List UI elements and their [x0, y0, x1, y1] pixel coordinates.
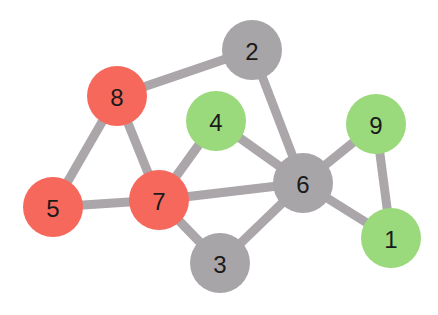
node-5[interactable]: 5 — [23, 177, 83, 237]
node-8[interactable]: 8 — [87, 66, 147, 126]
node-4[interactable]: 4 — [186, 91, 246, 151]
node-2[interactable]: 2 — [222, 20, 282, 80]
node-6[interactable]: 6 — [273, 153, 333, 213]
node-label: 1 — [384, 226, 397, 253]
node-label: 3 — [213, 251, 226, 278]
node-label: 7 — [152, 188, 165, 215]
node-label: 9 — [369, 112, 382, 139]
node-label: 5 — [46, 195, 59, 222]
node-label: 6 — [296, 171, 309, 198]
node-1[interactable]: 1 — [361, 208, 421, 268]
node-label: 2 — [245, 38, 258, 65]
graph-diagram: 123456789 — [0, 0, 438, 315]
node-7[interactable]: 7 — [129, 170, 189, 230]
node-label: 8 — [110, 84, 123, 111]
node-3[interactable]: 3 — [190, 233, 250, 293]
node-label: 4 — [209, 109, 222, 136]
node-9[interactable]: 9 — [346, 94, 406, 154]
